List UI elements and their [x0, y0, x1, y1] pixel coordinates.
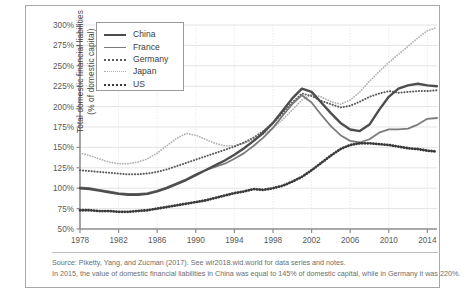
figure-root: Total domestic financial liabilities (% …: [0, 0, 470, 301]
y-tick-label: 250%: [53, 62, 74, 71]
legend-swatch-france-icon: [104, 42, 126, 52]
y-tick-label: 300%: [53, 21, 74, 30]
legend-label-us: US: [133, 79, 145, 89]
legend-label-china: China: [133, 29, 155, 39]
y-tick-label: 75%: [58, 205, 74, 214]
legend-item-us[interactable]: US: [104, 78, 183, 90]
chart-legend: China France Germany Japan US: [96, 22, 184, 91]
y-tick-label: 150%: [53, 143, 74, 152]
series-line-us: [80, 143, 437, 212]
legend-swatch-china-icon: [104, 29, 126, 39]
legend-item-france[interactable]: France: [104, 40, 183, 52]
y-tick-label: 100%: [53, 184, 74, 193]
x-tick-label: 1978: [71, 236, 90, 245]
y-tick-label: 50%: [58, 225, 74, 234]
y-axis-title-line2: (% of domestic capital): [85, 0, 96, 147]
x-tick-label: 1990: [187, 236, 206, 245]
x-tick-label: 1998: [264, 236, 283, 245]
legend-item-germany[interactable]: Germany: [104, 53, 183, 65]
y-tick-label: 225%: [53, 82, 74, 91]
y-axis-title: Total domestic financial liabilities (% …: [75, 0, 96, 147]
legend-item-japan[interactable]: Japan: [104, 65, 183, 77]
x-tick-label: 1994: [225, 236, 244, 245]
legend-swatch-us-icon: [104, 79, 126, 89]
figure-notes: Source: Piketty, Yang, and Zucman (2017)…: [52, 252, 438, 279]
legend-label-germany: Germany: [133, 54, 168, 64]
chart-area: Total domestic financial liabilities (% …: [26, 6, 439, 250]
series-line-china: [80, 84, 437, 195]
y-tick-label: 200%: [53, 103, 74, 112]
x-tick-label: 2014: [418, 236, 437, 245]
y-tick-label: 275%: [53, 41, 74, 50]
figure-frame: Total domestic financial liabilities (% …: [25, 5, 440, 288]
x-tick-label: 2006: [341, 236, 360, 245]
legend-swatch-japan-icon: [104, 66, 126, 76]
legend-swatch-germany-icon: [104, 54, 126, 64]
y-tick-label: 175%: [53, 123, 74, 132]
x-tick-label: 2002: [302, 236, 321, 245]
legend-label-japan: Japan: [133, 66, 156, 76]
y-axis-title-line1: Total domestic financial liabilities: [75, 0, 86, 147]
legend-item-china[interactable]: China: [104, 28, 183, 40]
y-tick-label: 125%: [53, 164, 74, 173]
x-tick-label: 1986: [148, 236, 167, 245]
note-description: In 2015, the value of domestic financial…: [52, 269, 438, 280]
legend-label-france: France: [133, 42, 160, 52]
x-tick-label: 1982: [109, 236, 128, 245]
note-source: Source: Piketty, Yang, and Zucman (2017)…: [52, 258, 438, 269]
x-tick-label: 2010: [380, 236, 399, 245]
